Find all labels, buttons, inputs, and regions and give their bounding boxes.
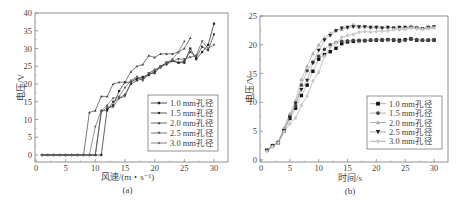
x-tick-label: 0	[34, 163, 38, 173]
legend-label: 2.0 mm孔径	[170, 118, 214, 128]
marker-circle-icon	[398, 40, 402, 44]
legend-label: 3.0 mm孔径	[389, 136, 433, 146]
x-axis: 051015202530	[259, 159, 438, 173]
marker-diamond-icon	[357, 30, 361, 34]
chart-a: 0510152025300510152025303540电压/V风速/(m・s⁻…	[0, 0, 229, 205]
x-tick-label: 25	[180, 163, 189, 173]
marker-circle-icon	[369, 38, 373, 42]
y-tick-label: 0	[253, 155, 257, 165]
marker-diamond-icon	[386, 29, 390, 33]
marker-circle-icon	[357, 38, 361, 42]
marker-square-icon	[300, 94, 303, 97]
marker-square-icon	[305, 83, 308, 86]
legend-label: 2.5 mm孔径	[170, 128, 214, 138]
marker-circle-icon	[426, 38, 430, 42]
chart-caption: (b)	[345, 186, 356, 196]
marker-circle-icon	[363, 38, 367, 42]
marker-diamond-icon	[346, 33, 350, 37]
y-tick-label: 40	[24, 8, 33, 18]
chart-caption: (a)	[123, 185, 133, 195]
chart-b: 0510152025300510152025电压/V时间/s(b)1.0 mm孔…	[229, 0, 458, 205]
marker-square-icon	[118, 90, 120, 92]
marker-circle-icon	[317, 55, 321, 59]
x-tick-label: 25	[401, 163, 410, 173]
marker-diamond-icon	[369, 30, 373, 34]
marker-circle-icon	[376, 111, 380, 115]
marker-triangle-down-icon	[317, 49, 321, 53]
marker-diamond-icon	[351, 32, 355, 36]
marker-circle-icon	[409, 37, 413, 41]
legend: 1.0 mm孔径1.5 mm孔径2.0 mm孔径2.5 mm孔径3.0 mm孔径	[148, 95, 218, 151]
y-tick-label: 5	[253, 126, 257, 136]
marker-circle-icon	[158, 112, 161, 115]
marker-circle-icon	[340, 40, 344, 44]
x-tick-label: 0	[259, 163, 263, 173]
marker-square-icon	[201, 51, 203, 53]
x-tick-label: 10	[91, 163, 100, 173]
marker-circle-icon	[323, 48, 327, 52]
x-tick-label: 15	[343, 163, 352, 173]
y-tick-label: 35	[24, 26, 33, 36]
x-tick-label: 5	[288, 163, 292, 173]
marker-circle-icon	[201, 46, 203, 48]
marker-circle-icon	[346, 39, 350, 43]
legend-label: 1.5 mm孔径	[170, 108, 214, 118]
marker-square-icon	[100, 154, 102, 156]
x-tick-label: 5	[64, 163, 68, 173]
marker-triangle-up-icon	[189, 37, 192, 39]
x-axis-title: 风速/(m・s⁻¹)	[101, 172, 154, 182]
y-tick-label: 20	[249, 40, 258, 50]
marker-diamond-icon	[380, 29, 384, 33]
marker-square-icon	[158, 102, 160, 104]
y-tick-label: 10	[24, 115, 33, 125]
marker-circle-icon	[392, 38, 396, 42]
legend: 1.0 mm孔径1.5 mm孔径2.0 mm孔径2.5 mm孔径3.0 mm孔径	[367, 96, 442, 149]
y-axis-title: 电压/V	[15, 73, 26, 101]
y-tick-label: 30	[24, 44, 33, 54]
chart-a-svg: 0510152025300510152025303540电压/V风速/(m・s⁻…	[0, 0, 229, 205]
x-axis: 051015202530	[34, 159, 218, 173]
marker-circle-icon	[351, 38, 355, 42]
marker-circle-icon	[375, 38, 379, 42]
marker-square-icon	[213, 23, 215, 25]
marker-circle-icon	[421, 38, 425, 42]
y-tick-label: 25	[249, 11, 258, 21]
y-tick-label: 5	[28, 132, 32, 142]
marker-square-icon	[311, 70, 314, 73]
legend-label: 3.0 mm孔径	[170, 138, 214, 148]
marker-triangle-up-icon	[183, 47, 186, 49]
marker-circle-icon	[403, 38, 407, 42]
marker-circle-icon	[415, 38, 419, 42]
y-tick-label: 25	[24, 61, 33, 71]
marker-triangle-up-icon	[305, 64, 309, 68]
y-tick-label: 0	[28, 150, 32, 160]
marker-triangle-up-icon	[147, 54, 150, 56]
marker-square-icon	[334, 47, 337, 50]
marker-triangle-down-icon	[322, 38, 326, 42]
marker-circle-icon	[380, 38, 384, 42]
marker-square-icon	[329, 50, 332, 53]
x-tick-label: 30	[210, 163, 219, 173]
x-tick-label: 10	[314, 163, 323, 173]
marker-square-icon	[376, 102, 380, 106]
marker-circle-icon	[136, 79, 138, 81]
marker-circle-icon	[213, 33, 215, 35]
x-axis-title: 时间/s	[338, 172, 363, 183]
legend-label: 1.0 mm孔径	[170, 98, 214, 108]
marker-circle-icon	[154, 72, 156, 74]
chart-b-svg: 0510152025300510152025电压/V时间/s(b)1.0 mm孔…	[229, 0, 458, 205]
x-tick-label: 30	[430, 163, 439, 173]
marker-square-icon	[207, 44, 209, 46]
marker-circle-icon	[432, 38, 436, 42]
marker-circle-icon	[189, 51, 191, 53]
marker-square-icon	[189, 47, 191, 49]
y-axis-title: 电压/V	[244, 75, 255, 103]
marker-diamond-icon	[398, 28, 402, 32]
x-tick-label: 20	[372, 163, 381, 173]
marker-circle-icon	[177, 62, 179, 64]
marker-triangle-up-icon	[299, 77, 303, 81]
marker-circle-icon	[112, 101, 114, 103]
marker-diamond-icon	[94, 125, 96, 128]
marker-triangle-up-icon	[311, 51, 315, 55]
marker-diamond-icon	[374, 29, 378, 33]
